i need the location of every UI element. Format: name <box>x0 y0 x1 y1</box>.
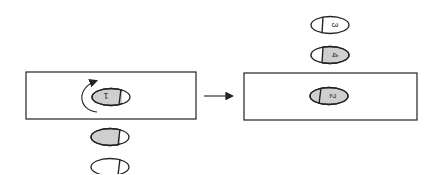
capsule-2-label: 2 <box>328 93 338 98</box>
process-diagram: 1 2 3 4 <box>0 0 425 174</box>
queue-capsule-open <box>91 159 129 175</box>
capsule-4: 4 <box>310 47 349 64</box>
queue-capsule-shaded <box>91 129 133 146</box>
capsule-1-label: 1 <box>103 91 108 101</box>
capsule-3: 3 <box>311 17 349 34</box>
capsule-4-label: 4 <box>330 52 340 57</box>
capsule-1: 1 <box>92 89 132 106</box>
capsule-3-label: 3 <box>330 22 340 27</box>
capsule-2: 2 <box>310 88 348 105</box>
